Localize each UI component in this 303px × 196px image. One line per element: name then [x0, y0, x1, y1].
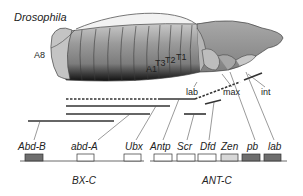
gene-boxes: [25, 154, 281, 161]
gene-label-abd-a: abd-A: [71, 141, 98, 152]
gene-box-lab: [264, 154, 281, 161]
gene-label-lab: lab: [268, 141, 282, 152]
complex-label-bxc: BX-C: [72, 175, 97, 186]
gene-box-antp: [154, 154, 172, 161]
embryo-illustration: A8 A1 T3 T2 T1 lab max int: [34, 13, 283, 97]
gene-label-scr: Scr: [177, 141, 193, 152]
gene-label-pb: pb: [246, 141, 259, 152]
gene-box-zen: [221, 154, 238, 161]
gene-box-abd-b: [25, 154, 43, 161]
gene-label-antp: Antp: [149, 141, 171, 152]
gene-labels: Abd-B abd-A Ubx Antp Scr Dfd Zen pb lab: [17, 141, 282, 152]
head-segment-label-max: max: [223, 87, 241, 97]
head-segment-label-lab: lab: [186, 87, 198, 97]
complex-label-antc: ANT-C: [201, 175, 232, 186]
gene-label-dfd: Dfd: [200, 141, 216, 152]
segment-label: T2: [165, 55, 176, 65]
gene-box-abd-a: [77, 154, 94, 161]
head-segment-label-int: int: [261, 87, 271, 97]
hox-gene-diagram: Drosophila A8 A1 T3 T: [0, 0, 303, 196]
gene-label-abd-b: Abd-B: [17, 141, 46, 152]
segment-label: A8: [34, 50, 45, 60]
gene-label-ubx: Ubx: [125, 141, 144, 152]
gene-label-zen: Zen: [220, 141, 239, 152]
gene-box-ubx: [124, 154, 141, 161]
dfd-domain-bar: [205, 100, 221, 104]
organism-title: Drosophila: [14, 11, 67, 23]
gene-box-dfd: [198, 154, 216, 161]
gene-box-scr: [177, 154, 195, 161]
segment-label: T3: [155, 58, 166, 68]
segment-label: T1: [176, 52, 187, 62]
gene-box-pb: [242, 154, 260, 161]
